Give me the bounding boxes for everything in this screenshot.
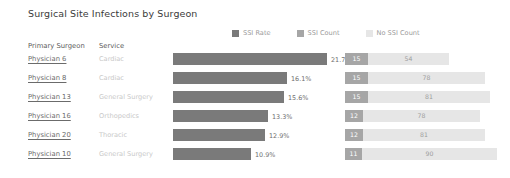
ssi-count-segment[interactable]: 15 bbox=[345, 91, 368, 103]
legend-swatch-icon bbox=[366, 30, 373, 37]
legend-label: No SSI Count bbox=[377, 29, 420, 37]
service-label: Cardiac bbox=[99, 55, 124, 63]
ssi-count-label: 15 bbox=[353, 75, 361, 81]
count-bar-track: 1578 bbox=[345, 72, 485, 84]
rate-bar[interactable] bbox=[173, 110, 268, 122]
ssi-count-label: 11 bbox=[350, 151, 358, 157]
surgeon-link[interactable]: Physician 8 bbox=[28, 74, 66, 82]
service-label: Thoracic bbox=[99, 131, 127, 139]
page-title: Surgical Site Infections by Surgeon bbox=[28, 8, 198, 19]
count-bar-track: 1554 bbox=[345, 53, 449, 65]
ssi-count-segment[interactable]: 12 bbox=[345, 129, 363, 141]
rate-bar[interactable] bbox=[173, 72, 287, 84]
no-ssi-count-segment[interactable]: 78 bbox=[368, 72, 485, 84]
rate-bar-track: 15.6% bbox=[173, 91, 333, 103]
count-bar-track: 1281 bbox=[345, 129, 485, 141]
surgeon-link[interactable]: Physician 16 bbox=[28, 112, 71, 120]
legend-swatch-icon bbox=[232, 30, 239, 37]
rate-value-label: 12.9% bbox=[269, 132, 289, 140]
table-row: Physician 8Cardiac16.1%1578 bbox=[0, 70, 510, 89]
rate-bar-track: 10.9% bbox=[173, 148, 333, 160]
table-row: Physician 10General Surgery10.9%1190 bbox=[0, 146, 510, 165]
table-row: Physician 13General Surgery15.6%1581 bbox=[0, 89, 510, 108]
column-header-service: Service bbox=[99, 42, 124, 50]
chart-rows: Physician 6Cardiac21.7%1554Physician 8Ca… bbox=[0, 51, 510, 165]
no-ssi-count-label: 81 bbox=[420, 132, 428, 138]
rate-bar[interactable] bbox=[173, 129, 265, 141]
service-label: Orthopedics bbox=[99, 112, 139, 120]
table-row: Physician 6Cardiac21.7%1554 bbox=[0, 51, 510, 70]
surgeon-link[interactable]: Physician 13 bbox=[28, 93, 71, 101]
rate-bar-track: 16.1% bbox=[173, 72, 333, 84]
visualization-container: Surgical Site Infections by Surgeon SSI … bbox=[0, 0, 510, 178]
table-row: Physician 16Orthopedics13.3%1278 bbox=[0, 108, 510, 127]
rate-bar[interactable] bbox=[173, 148, 251, 160]
rate-bar-track: 21.7% bbox=[173, 53, 333, 65]
no-ssi-count-label: 78 bbox=[418, 113, 426, 119]
service-label: General Surgery bbox=[99, 150, 153, 158]
table-row: Physician 20Thoracic12.9%1281 bbox=[0, 127, 510, 146]
ssi-count-label: 15 bbox=[353, 56, 361, 62]
no-ssi-count-segment[interactable]: 78 bbox=[363, 110, 480, 122]
legend-label: SSI Count bbox=[308, 29, 340, 37]
ssi-count-label: 15 bbox=[353, 94, 361, 100]
no-ssi-count-segment[interactable]: 54 bbox=[368, 53, 449, 65]
count-bar-track: 1581 bbox=[345, 91, 490, 103]
rate-value-label: 13.3% bbox=[272, 113, 292, 121]
legend-label: SSI Rate bbox=[243, 29, 271, 37]
service-label: General Surgery bbox=[99, 93, 153, 101]
rate-bar-track: 13.3% bbox=[173, 110, 333, 122]
legend-item[interactable]: SSI Count bbox=[297, 29, 340, 37]
rate-value-label: 16.1% bbox=[291, 75, 311, 83]
ssi-count-label: 12 bbox=[350, 132, 358, 138]
ssi-count-label: 12 bbox=[350, 113, 358, 119]
column-header-surgeon: Primary Surgeon bbox=[28, 42, 85, 50]
legend: SSI RateSSI CountNo SSI Count bbox=[232, 29, 420, 37]
count-bar-track: 1190 bbox=[345, 148, 497, 160]
surgeon-link[interactable]: Physician 20 bbox=[28, 131, 71, 139]
no-ssi-count-label: 81 bbox=[425, 94, 433, 100]
legend-swatch-icon bbox=[297, 30, 304, 37]
ssi-count-segment[interactable]: 15 bbox=[345, 53, 368, 65]
rate-value-label: 10.9% bbox=[255, 151, 275, 159]
no-ssi-count-segment[interactable]: 90 bbox=[362, 148, 497, 160]
ssi-count-segment[interactable]: 15 bbox=[345, 72, 368, 84]
rate-bar[interactable] bbox=[173, 53, 327, 65]
no-ssi-count-segment[interactable]: 81 bbox=[363, 129, 485, 141]
legend-item[interactable]: No SSI Count bbox=[366, 29, 420, 37]
surgeon-link[interactable]: Physician 6 bbox=[28, 55, 66, 63]
legend-item[interactable]: SSI Rate bbox=[232, 29, 271, 37]
no-ssi-count-label: 78 bbox=[423, 75, 431, 81]
service-label: Cardiac bbox=[99, 74, 124, 82]
rate-bar[interactable] bbox=[173, 91, 284, 103]
no-ssi-count-label: 90 bbox=[426, 151, 434, 157]
count-bar-track: 1278 bbox=[345, 110, 480, 122]
no-ssi-count-label: 54 bbox=[405, 56, 413, 62]
rate-value-label: 15.6% bbox=[288, 94, 308, 102]
surgeon-link[interactable]: Physician 10 bbox=[28, 150, 71, 158]
rate-bar-track: 12.9% bbox=[173, 129, 333, 141]
ssi-count-segment[interactable]: 11 bbox=[345, 148, 362, 160]
no-ssi-count-segment[interactable]: 81 bbox=[368, 91, 490, 103]
ssi-count-segment[interactable]: 12 bbox=[345, 110, 363, 122]
